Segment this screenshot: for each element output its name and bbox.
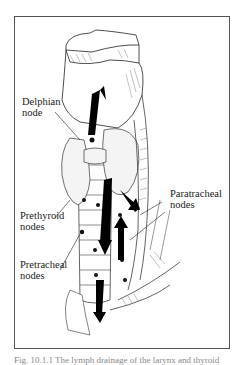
larynx-cartilage <box>62 30 143 128</box>
label-paratracheal-nodes: Paratracheal nodes <box>170 188 222 210</box>
label-pretracheal-nodes: Pretracheal nodes <box>20 259 67 281</box>
label-delphian-node: Delphian node <box>22 96 61 118</box>
figure-caption: Fig. 10.1.1 The lymph drainage of the la… <box>14 355 219 365</box>
label-prethyroid-nodes: Prethyroid nodes <box>20 210 64 232</box>
